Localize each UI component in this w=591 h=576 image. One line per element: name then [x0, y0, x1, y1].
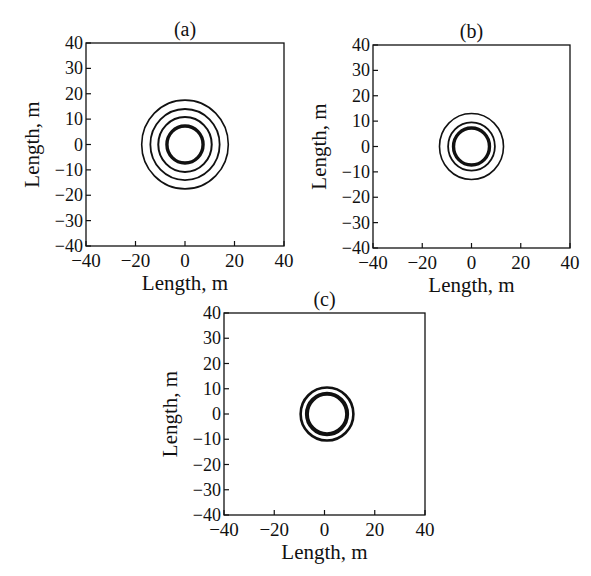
y-tick-label: 40 — [352, 35, 370, 55]
y-tick-label: 0 — [361, 137, 370, 157]
contour-ring — [307, 394, 347, 434]
y-tick-label: 10 — [352, 111, 370, 131]
y-tick-label: −20 — [55, 185, 83, 205]
y-axis-label: Length, m — [20, 101, 44, 187]
x-tick-label: 0 — [320, 519, 330, 540]
panel-title: (b) — [460, 20, 483, 43]
y-axis-label: Length, m — [158, 371, 182, 457]
y-tick-label: −10 — [342, 162, 370, 182]
y-tick-label: 20 — [352, 86, 370, 106]
y-tick-label: −10 — [193, 429, 221, 449]
x-tick-label: 0 — [467, 252, 477, 273]
y-tick-label: 10 — [203, 379, 221, 399]
y-tick-label: 20 — [65, 84, 83, 104]
panel-c: −40−2002040−40−30−20−10010203040(c)Lengt… — [158, 288, 435, 564]
x-tick-label: 20 — [511, 252, 530, 273]
y-tick-label: −40 — [55, 236, 83, 256]
x-axis-label: Length, m — [428, 273, 514, 297]
y-tick-label: 30 — [65, 58, 83, 78]
y-tick-label: 40 — [203, 303, 221, 323]
plot-frame — [373, 45, 570, 248]
y-tick-label: −20 — [193, 455, 221, 475]
y-tick-label: −10 — [55, 160, 83, 180]
plot-frame — [86, 43, 284, 246]
panel-b: −40−2002040−40−30−20−10010203040(b)Lengt… — [307, 20, 580, 297]
x-tick-label: 20 — [365, 519, 384, 540]
y-tick-label: 30 — [352, 60, 370, 80]
panel-title: (c) — [313, 288, 335, 311]
x-tick-label: 0 — [180, 250, 190, 271]
x-tick-label: −20 — [259, 519, 289, 540]
y-tick-label: 20 — [203, 354, 221, 374]
x-axis-label: Length, m — [142, 271, 228, 295]
y-tick-label: −20 — [342, 187, 370, 207]
x-tick-label: 40 — [416, 519, 435, 540]
y-tick-label: 40 — [65, 33, 83, 53]
contour-ring — [439, 114, 503, 180]
y-tick-label: 0 — [212, 404, 221, 424]
plot-frame — [224, 313, 425, 515]
x-axis-label: Length, m — [281, 540, 367, 564]
y-tick-label: 10 — [65, 109, 83, 129]
x-tick-label: 20 — [225, 250, 244, 271]
y-tick-label: −30 — [342, 213, 370, 233]
y-tick-label: −30 — [193, 480, 221, 500]
contour-ring — [167, 126, 203, 163]
x-tick-label: 40 — [275, 250, 294, 271]
y-tick-label: −40 — [193, 505, 221, 525]
x-tick-label: −20 — [121, 250, 151, 271]
y-tick-label: 30 — [203, 328, 221, 348]
panel-a: −40−2002040−40−30−20−10010203040(a)Lengt… — [20, 18, 294, 295]
y-tick-label: 0 — [74, 135, 83, 155]
y-tick-label: −30 — [55, 211, 83, 231]
x-tick-label: 40 — [561, 252, 580, 273]
x-tick-label: −20 — [407, 252, 437, 273]
figure: −40−2002040−40−30−20−10010203040(a)Lengt… — [0, 0, 591, 576]
y-tick-label: −40 — [342, 238, 370, 258]
contour-ring — [142, 100, 229, 189]
y-axis-label: Length, m — [307, 103, 331, 189]
contour-ring — [150, 109, 219, 180]
panel-title: (a) — [174, 18, 196, 41]
contour-ring — [454, 128, 490, 165]
